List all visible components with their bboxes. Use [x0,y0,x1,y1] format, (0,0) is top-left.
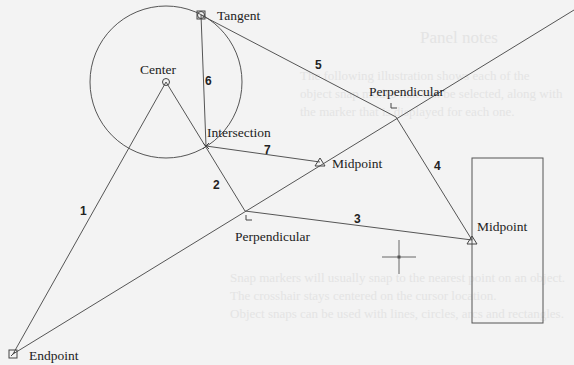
rectangle-shape [472,158,543,323]
diagram-svg: Tangent Center Intersection Perpendicula… [0,0,574,365]
center-label: Center [140,62,176,77]
perpendicular-upper-label: Perpendicular [369,84,444,99]
segment-4-number: 4 [434,159,441,173]
segment-6-number: 6 [205,74,212,88]
snap-diagram-canvas: Panel notes The following illustration s… [0,0,574,365]
crosshair-cursor-icon [382,240,416,274]
segment-1 [13,82,166,354]
midpoint-inner-label: Midpoint [332,156,383,171]
segment-3-number: 3 [354,212,361,226]
segment-5-number: 5 [315,58,322,72]
segment-4 [396,117,472,240]
perpendicular-marker-icon [391,103,397,108]
perpendicular-lower-label: Perpendicular [235,229,310,244]
long-line [13,10,574,354]
endpoint-marker-icon [9,350,17,358]
segment-5 [201,15,396,117]
segment-2-number: 2 [213,178,220,192]
segment-7-number: 7 [264,143,271,157]
tangent-label: Tangent [217,8,261,23]
intersection-label: Intersection [207,125,271,140]
segment-7 [206,146,320,162]
midpoint-rect-label: Midpoint [477,219,528,234]
endpoint-label: Endpoint [29,348,79,363]
segment-1-number: 1 [80,204,87,218]
perpendicular-marker-icon [246,215,252,220]
